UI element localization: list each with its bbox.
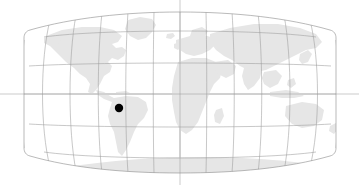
land-new-zealand	[329, 123, 338, 134]
land-south-america	[108, 96, 148, 156]
land-philippines	[287, 78, 296, 88]
land-iceland	[166, 33, 175, 39]
land-australia	[285, 102, 324, 128]
land-africa	[172, 58, 222, 134]
meridian-30w	[153, 12, 154, 173]
map-canvas	[0, 0, 359, 185]
land-southeast-asia	[262, 70, 282, 88]
land-greenland	[125, 17, 156, 40]
land-caribbean	[116, 91, 130, 95]
location-marker-dot[interactable]	[115, 104, 123, 112]
land-madagascar	[214, 108, 224, 124]
location-marker-group[interactable]	[115, 104, 123, 112]
landmasses-group	[24, 17, 338, 180]
land-india	[242, 66, 262, 90]
world-locator-map	[0, 0, 359, 185]
